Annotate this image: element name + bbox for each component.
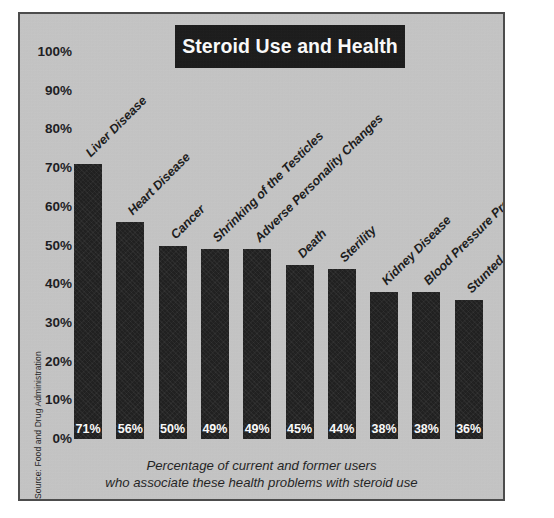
bar — [74, 164, 102, 439]
bar — [159, 246, 187, 440]
bar — [243, 249, 271, 439]
bar — [370, 292, 398, 439]
bar-category-label: Heart Disease — [125, 150, 193, 218]
bar-value-label: 38% — [412, 422, 440, 436]
bar-value-label: 45% — [286, 422, 314, 436]
plot-area: 100%90%80%70%60%50%40%30%20%10%0% 71%Liv… — [20, 14, 503, 499]
bar — [455, 300, 483, 439]
bar — [201, 249, 229, 439]
chart-figure: Source: Food and Drug Administration Ste… — [0, 0, 554, 518]
bar-group: 38%Kidney Disease — [370, 292, 398, 439]
bar-category-label: Liver Disease — [83, 94, 149, 160]
bar-value-label: 50% — [159, 422, 187, 436]
bar-value-label: 56% — [116, 422, 144, 436]
bar-value-label: 49% — [201, 422, 229, 436]
bar-group: 71%Liver Disease — [74, 164, 102, 439]
bar-value-label: 71% — [74, 422, 102, 436]
bar-group: 45%Death — [286, 265, 314, 439]
bar — [412, 292, 440, 439]
caption-line-2: who associate these health problems with… — [30, 474, 493, 491]
bar-group: 49%Adverse Personality Changes — [243, 249, 271, 439]
bar-group: 36%Stunted Growth — [455, 300, 483, 439]
bar-category-label: Death — [295, 227, 329, 261]
bar — [116, 222, 144, 439]
chart-panel: Source: Food and Drug Administration Ste… — [18, 12, 505, 501]
chart-title: Steroid Use and Health — [182, 35, 398, 58]
bar — [286, 265, 314, 439]
bar-group: 38%Blood Pressure Problems — [412, 292, 440, 439]
chart-caption: Percentage of current and former users w… — [30, 457, 493, 491]
caption-line-1: Percentage of current and former users — [30, 457, 493, 474]
bar — [328, 269, 356, 439]
bar-group: 56%Heart Disease — [116, 222, 144, 439]
bar-category-label: Sterility — [337, 223, 379, 265]
bar-group: 44%Sterility — [328, 269, 356, 439]
chart-title-banner: Steroid Use and Health — [175, 25, 405, 68]
bar-value-label: 38% — [370, 422, 398, 436]
bar-category-label: Kidney Disease — [379, 213, 454, 288]
bar-value-label: 36% — [455, 422, 483, 436]
bar-value-label: 44% — [328, 422, 356, 436]
bar-group: 50%Cancer — [159, 246, 187, 440]
bar-category-label: Cancer — [168, 202, 208, 242]
bar-value-label: 49% — [243, 422, 271, 436]
bar-group: 49%Shrinking of the Testicles — [201, 249, 229, 439]
bars-layer: 71%Liver Disease56%Heart Disease50%Cance… — [20, 14, 503, 499]
